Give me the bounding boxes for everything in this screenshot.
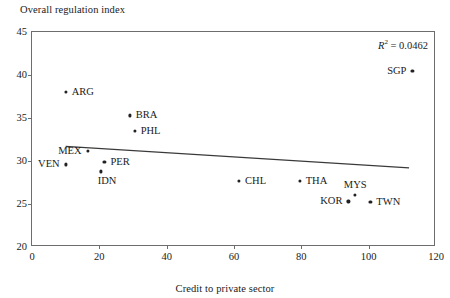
trendline	[32, 32, 436, 247]
y-tick-mark	[28, 204, 32, 205]
data-point-label-tha: THA	[306, 176, 328, 187]
y-tick-mark	[28, 118, 32, 119]
y-tick-label: 25	[17, 199, 28, 210]
x-tick-mark	[369, 245, 370, 249]
y-tick-label: 20	[17, 242, 28, 253]
y-tick-mark	[28, 161, 32, 162]
x-axis-title: Credit to private sector	[0, 283, 450, 294]
x-tick-mark	[167, 245, 168, 249]
data-point-label-chl: CHL	[245, 176, 266, 187]
x-tick-label: 0	[29, 252, 34, 263]
y-tick-label: 40	[17, 70, 28, 81]
y-tick-label: 35	[17, 113, 28, 124]
x-tick-mark	[301, 245, 302, 249]
data-point-label-arg: ARG	[72, 87, 94, 98]
y-tick-label: 45	[17, 27, 28, 38]
x-tick-mark	[99, 245, 100, 249]
y-tick-label: 30	[17, 156, 28, 167]
x-tick-label: 120	[428, 252, 444, 263]
data-point-label-kor: KOR	[320, 196, 342, 207]
x-tick-label: 80	[296, 252, 307, 263]
scatter-chart-figure: Overall regulation index 202530354045 02…	[0, 0, 450, 298]
plot-area: 202530354045 020406080100120 ARGBRAPHLME…	[31, 31, 435, 246]
x-tick-mark	[234, 245, 235, 249]
data-point-label-sgp: SGP	[387, 65, 406, 76]
r-squared-annotation: R2 = 0.0462	[378, 38, 428, 51]
data-point-label-twn: TWN	[376, 197, 400, 208]
x-tick-label: 40	[161, 252, 172, 263]
data-point-label-mys: MYS	[344, 179, 367, 190]
x-tick-label: 100	[361, 252, 377, 263]
data-point-label-per: PER	[110, 157, 129, 168]
data-point-label-ven: VEN	[38, 159, 60, 170]
data-point-label-idn: IDN	[98, 176, 117, 187]
data-point-label-bra: BRA	[136, 110, 158, 121]
y-axis-title: Overall regulation index	[20, 4, 125, 15]
data-point-label-phl: PHL	[141, 126, 161, 137]
x-tick-label: 60	[229, 252, 240, 263]
data-point-label-mex: MEX	[58, 145, 81, 156]
r-squared-value: = 0.0462	[388, 40, 428, 51]
x-tick-label: 20	[94, 252, 105, 263]
y-tick-mark	[28, 75, 32, 76]
